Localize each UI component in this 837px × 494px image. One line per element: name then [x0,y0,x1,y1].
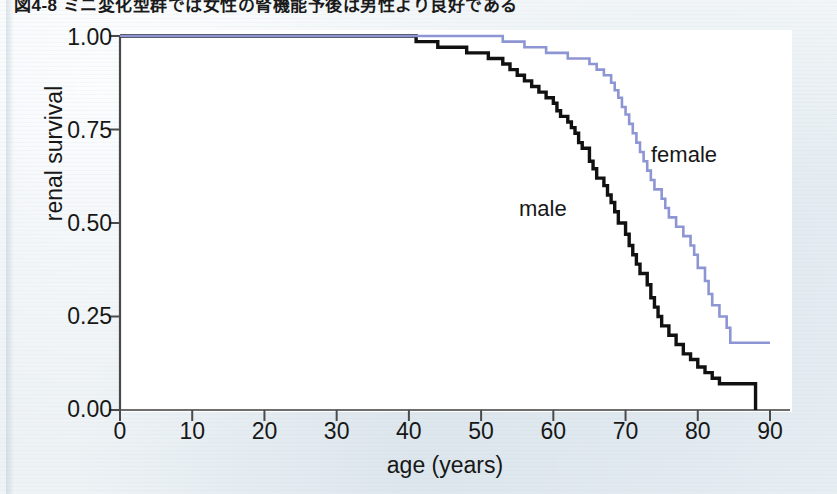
x-axis-title: age (years) [120,452,770,479]
x-tick-label: 20 [234,418,294,445]
female-series-label: female [651,142,717,168]
male-series-label: male [519,196,567,222]
x-tick-label: 30 [307,418,367,445]
x-tick-label: 90 [740,418,800,445]
figure-page: 図4-8 ミニ変化型群では女性の腎機能予後は男性より良好である 1.00 0.7… [0,0,837,494]
y-axis-title: renal survival [41,54,68,254]
x-tick-label: 0 [90,418,150,445]
x-tick-label: 40 [379,418,439,445]
x-tick-label: 70 [596,418,656,445]
x-tick-label: 60 [523,418,583,445]
x-tick-label: 10 [162,418,222,445]
x-tick-labels: 0102030405060708090 [0,0,837,494]
x-tick-label: 50 [451,418,511,445]
x-tick-label: 80 [668,418,728,445]
